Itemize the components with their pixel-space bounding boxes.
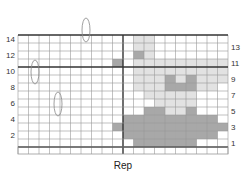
shaded-cell: [176, 107, 187, 115]
shaded-cell: [197, 131, 208, 139]
shaded-cell: [186, 83, 197, 91]
shaded-cell: [176, 123, 187, 131]
shaded-cell: [197, 115, 208, 123]
shaded-cell: [165, 83, 176, 91]
shaded-cell: [134, 131, 145, 139]
row-label: 13: [231, 43, 240, 52]
shaded-cell: [134, 75, 145, 83]
shaded-cell: [144, 75, 155, 83]
shaded-cell: [197, 75, 208, 83]
row-label: 3: [231, 123, 236, 132]
shaded-cell: [155, 83, 166, 91]
shaded-cell: [207, 67, 218, 75]
shaded-cell: [186, 59, 197, 67]
shaded-cell: [218, 123, 229, 131]
shaded-cell: [176, 131, 187, 139]
shaded-cell: [186, 75, 197, 83]
shaded-cell: [176, 91, 187, 99]
row-label: 2: [11, 131, 16, 140]
shaded-cell: [155, 123, 166, 131]
shaded-cell: [197, 123, 208, 131]
shaded-cell: [155, 139, 166, 147]
chart-diagram: 1412108642 131197531 Rep: [0, 0, 246, 180]
shaded-cell: [186, 139, 197, 147]
shaded-cell: [176, 67, 187, 75]
shaded-cell: [165, 99, 176, 107]
shaded-cell: [176, 139, 187, 147]
shaded-cell: [165, 131, 176, 139]
row-label: 6: [11, 99, 16, 108]
shaded-cell: [155, 115, 166, 123]
shaded-cell: [155, 75, 166, 83]
shaded-cell: [155, 91, 166, 99]
row-label: 4: [11, 115, 16, 124]
shaded-cell: [144, 83, 155, 91]
grid-lines: [18, 35, 228, 154]
shaded-cell: [165, 91, 176, 99]
shaded-cell: [144, 131, 155, 139]
shaded-cell: [144, 115, 155, 123]
shaded-cell: [155, 107, 166, 115]
shaded-cell: [155, 67, 166, 75]
shaded-cell: [176, 75, 187, 83]
shaded-cell: [207, 59, 218, 67]
shaded-cell: [123, 131, 134, 139]
shaded-cell: [197, 83, 208, 91]
shaded-cell: [207, 75, 218, 83]
shaded-cell: [113, 59, 124, 67]
row-label: 10: [6, 67, 15, 76]
row-label: 8: [11, 83, 16, 92]
shaded-cell: [186, 131, 197, 139]
shaded-cell: [134, 83, 145, 91]
shaded-cell: [218, 67, 229, 75]
shaded-cell: [186, 123, 197, 131]
row-labels-right: 131197531: [231, 43, 240, 148]
shaded-cell: [134, 59, 145, 67]
shaded-cell: [113, 123, 124, 131]
shaded-cell: [134, 123, 145, 131]
shaded-cell: [134, 115, 145, 123]
shaded-cell: [207, 83, 218, 91]
shaded-cell: [176, 83, 187, 91]
shaded-cell: [218, 59, 229, 67]
row-label: 11: [231, 59, 240, 68]
shaded-cell: [186, 67, 197, 75]
shaded-cell: [165, 67, 176, 75]
shaded-cell: [134, 35, 145, 43]
oval-marker: [31, 60, 39, 84]
row-labels-left: 1412108642: [6, 35, 15, 140]
shaded-cell: [197, 67, 208, 75]
row-label: 9: [231, 75, 236, 84]
shaded-cell: [165, 59, 176, 67]
shaded-cell: [218, 75, 229, 83]
row-label: 1: [231, 139, 236, 148]
shaded-cell: [155, 59, 166, 67]
shaded-cell: [207, 123, 218, 131]
shaded-cell: [207, 131, 218, 139]
oval-marker: [82, 18, 90, 42]
shaded-cell: [165, 123, 176, 131]
oval-marker: [54, 92, 62, 116]
x-axis-label: Rep: [114, 160, 133, 171]
shaded-cell: [134, 43, 145, 51]
row-label: 7: [231, 91, 236, 100]
shaded-cell: [186, 99, 197, 107]
shaded-cell: [144, 67, 155, 75]
shaded-cell: [165, 75, 176, 83]
shaded-cell: [165, 115, 176, 123]
shaded-cell: [155, 131, 166, 139]
shaded-cell: [144, 51, 155, 59]
row-label: 14: [6, 35, 15, 44]
shaded-cell: [144, 107, 155, 115]
shaded-cell: [134, 51, 145, 59]
shaded-cell: [134, 139, 145, 147]
shaded-cell: [197, 59, 208, 67]
shaded-cell: [165, 139, 176, 147]
shaded-cell: [165, 107, 176, 115]
shaded-cell: [186, 107, 197, 115]
shaded-cell: [123, 115, 134, 123]
shaded-cell: [123, 123, 134, 131]
row-label: 5: [231, 107, 236, 116]
row-label: 12: [6, 51, 15, 60]
shaded-cell: [144, 139, 155, 147]
